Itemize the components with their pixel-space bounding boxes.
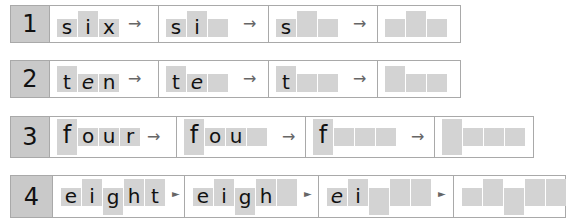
letter-box-short: s [276, 19, 296, 37]
letter-boxes: t e [166, 66, 229, 92]
letter-boxes: t e n [57, 66, 120, 92]
letter-box-blank [463, 128, 483, 146]
letter-box-short: s [57, 19, 77, 37]
letter-box-tall: i [187, 11, 207, 37]
arrow-icon: → [243, 71, 256, 87]
arrow-icon: ► [172, 189, 180, 199]
arrow-icon: → [128, 71, 141, 87]
letter-box-short: e [327, 188, 347, 206]
word-row-4: 4 e i g h t ► e i g h ► e i ► [10, 175, 566, 218]
letter-box-tall: t [57, 66, 77, 92]
step-1: f o u r → [50, 117, 177, 157]
letter-box-blank [484, 128, 504, 146]
letter-box-blank [406, 74, 426, 92]
letter-box-blank [546, 179, 566, 206]
arrow-icon: → [353, 16, 366, 32]
letter-box-short: e [187, 74, 207, 92]
row-number: 2 [11, 61, 50, 97]
word-row-1: 1 s i x → s i → s → [10, 5, 461, 43]
letter-box-tall: i [82, 179, 102, 206]
letter-box-tall: i [78, 11, 98, 37]
letter-box-short: e [78, 74, 98, 92]
letter-boxes [442, 119, 526, 155]
letter-box-blank [385, 66, 405, 92]
letter-box-blank [318, 19, 338, 37]
letter-boxes [385, 11, 448, 37]
arrow-icon: → [353, 71, 366, 87]
letter-box-blank [483, 179, 503, 206]
letter-box-blank [208, 74, 228, 92]
step-3: e i ► [319, 176, 454, 217]
letter-box-blank [369, 188, 389, 215]
letter-box-blank [277, 179, 297, 206]
letter-box-short: e [193, 188, 213, 206]
arrow-icon: ► [304, 189, 312, 199]
letter-box-tall: t [145, 179, 165, 206]
letter-box-descender: g [235, 188, 255, 215]
step-2: t e → [159, 61, 269, 97]
letter-box-tall: i [348, 179, 368, 206]
arrow-icon: → [243, 16, 256, 32]
row-number: 3 [11, 117, 50, 157]
letter-box-blank [427, 19, 447, 37]
letter-box-blank [297, 11, 317, 37]
letter-box-short: u [226, 128, 246, 146]
letter-box-full: f [184, 119, 204, 155]
letter-box-blank [376, 128, 396, 146]
letter-box-blank [355, 128, 375, 146]
step-4 [454, 176, 565, 217]
arrow-icon: → [411, 129, 424, 145]
step-4 [378, 61, 460, 97]
letter-box-blank [390, 179, 410, 206]
step-3: t → [269, 61, 378, 97]
letter-box-short: n [99, 74, 119, 92]
letter-box-short: s [166, 19, 186, 37]
letter-box-blank [504, 188, 524, 215]
letter-boxes: s i x [57, 11, 120, 37]
letter-box-blank [525, 179, 545, 206]
letter-box-short: x [99, 19, 119, 37]
letter-box-blank [247, 128, 267, 146]
word-row-2: 2 t e n → t e → t → [10, 60, 461, 98]
letter-box-short: o [78, 128, 98, 146]
letter-box-blank [442, 119, 462, 155]
letter-box-tall: h [256, 179, 276, 206]
letter-box-full: f [313, 119, 333, 155]
letter-box-descender: g [103, 188, 123, 215]
letter-boxes: f [313, 119, 397, 155]
letter-box-short: r [120, 128, 140, 146]
letter-boxes: f o u r [57, 119, 141, 155]
letter-boxes: e i [327, 179, 432, 215]
row-number: 1 [11, 6, 50, 42]
word-row-3: 3 f o u r → f o u → f → [10, 116, 534, 158]
step-2: f o u → [177, 117, 306, 157]
letter-box-blank [385, 19, 405, 37]
letter-box-blank [318, 74, 338, 92]
letter-boxes: e i g h [193, 179, 298, 215]
letter-boxes: s i [166, 11, 229, 37]
letter-boxes: s [276, 11, 339, 37]
letter-box-blank [411, 179, 431, 206]
letter-box-blank [208, 19, 228, 37]
step-4 [435, 117, 533, 157]
letter-boxes: t [276, 66, 339, 92]
letter-box-short: u [99, 128, 119, 146]
step-2: s i → [159, 6, 269, 42]
step-4 [378, 6, 460, 42]
letter-box-blank [427, 74, 447, 92]
letter-box-full: f [57, 119, 77, 155]
letter-box-blank [334, 128, 354, 146]
letter-box-tall: h [124, 179, 144, 206]
step-3: f → [306, 117, 435, 157]
step-1: t e n → [50, 61, 159, 97]
letter-box-tall: t [166, 66, 186, 92]
step-1: s i x → [50, 6, 159, 42]
letter-box-blank [462, 188, 482, 206]
letter-boxes: e i g h t [61, 179, 166, 215]
arrow-icon: ► [438, 189, 446, 199]
letter-box-blank [505, 128, 525, 146]
letter-box-short: e [61, 188, 81, 206]
letter-box-short: o [205, 128, 225, 146]
letter-box-blank [406, 11, 426, 37]
step-1: e i g h t ► [53, 176, 185, 217]
